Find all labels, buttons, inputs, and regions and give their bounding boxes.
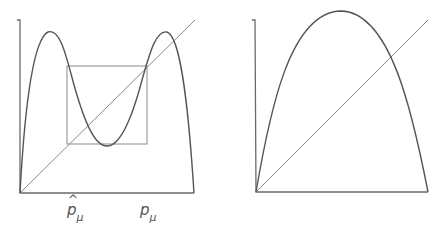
left-panel	[17, 20, 195, 193]
right-hump-curve	[256, 11, 428, 192]
right-panel	[252, 11, 428, 192]
right-diagonal	[256, 20, 428, 192]
left-diagonal	[20, 20, 195, 193]
hat-accent: ^	[68, 194, 78, 206]
figure-canvas	[0, 0, 440, 233]
label-p-mu: pμ	[140, 203, 157, 221]
label-p-hat-mu: ^pμ	[67, 203, 84, 221]
left-axes	[17, 20, 194, 193]
left-double-hump-curve	[20, 32, 194, 193]
